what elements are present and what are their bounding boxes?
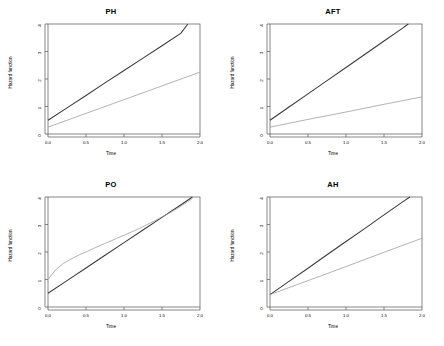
ytick-1: 1 xyxy=(37,279,42,282)
ytick-2: 2 xyxy=(259,79,264,82)
ytick-0: 0 xyxy=(259,134,264,137)
plot-area-po: 4 3 2 1 0 0.0 0.5 1.0 1.5 2.0 xyxy=(0,173,222,346)
y-axis-label: Hazard function xyxy=(8,35,13,111)
plot-frame-po xyxy=(48,197,200,307)
plot-area-ah: 4 3 2 1 0 0.0 0.5 1.0 1.5 2.0 xyxy=(222,173,444,346)
panel-po: PO 4 3 2 1 0 xyxy=(0,173,222,346)
series-line-light xyxy=(48,72,200,127)
xtick-4: 2.0 xyxy=(197,313,204,318)
figure-panel-grid: PH 4 3 2 1 0 xyxy=(0,0,444,346)
ytick-1: 1 xyxy=(37,106,42,109)
panel-ah: AH 4 3 2 1 0 xyxy=(222,173,444,346)
xtick-0: 0.0 xyxy=(45,313,52,318)
plot-frame-ah xyxy=(270,197,422,307)
ytick-0: 0 xyxy=(259,307,264,310)
xtick-0: 0.0 xyxy=(267,313,274,318)
plot-frame-ph xyxy=(48,24,200,134)
ytick-1: 1 xyxy=(259,279,264,282)
xtick-0: 0.0 xyxy=(45,140,52,145)
x-axis-ph: 0.0 0.5 1.0 1.5 2.0 xyxy=(45,134,204,145)
xtick-4: 2.0 xyxy=(419,140,426,145)
ytick-4: 4 xyxy=(259,197,264,200)
xtick-3: 1.5 xyxy=(381,313,388,318)
ytick-4: 4 xyxy=(37,24,42,27)
x-axis-label: Time xyxy=(222,151,444,156)
plot-frame-aft xyxy=(270,24,422,134)
y-axis-label: Hazard function xyxy=(8,208,13,284)
panel-aft: AFT 4 3 2 1 0 xyxy=(222,0,444,173)
ytick-2: 2 xyxy=(259,252,264,255)
ytick-2: 2 xyxy=(37,252,42,255)
x-axis-label: Time xyxy=(0,324,222,329)
plot-area-ph: 4 3 2 1 0 0.0 0.5 1.0 1.5 2.0 xyxy=(0,0,222,173)
y-axis-label: Hazard function xyxy=(230,35,235,111)
ytick-3: 3 xyxy=(37,51,42,54)
xtick-4: 2.0 xyxy=(197,140,204,145)
panel-ph: PH 4 3 2 1 0 xyxy=(0,0,222,173)
ytick-3: 3 xyxy=(259,51,264,54)
ytick-3: 3 xyxy=(259,224,264,227)
xtick-2: 1.0 xyxy=(121,140,128,145)
x-axis-label: Time xyxy=(0,151,222,156)
xtick-1: 0.5 xyxy=(83,313,90,318)
series-line-dark xyxy=(270,24,408,120)
xtick-3: 1.5 xyxy=(159,313,166,318)
y-axis-ph: 4 3 2 1 0 xyxy=(37,24,48,137)
plot-area-aft: 4 3 2 1 0 0.0 0.5 1.0 1.5 2.0 xyxy=(222,0,444,173)
ytick-2: 2 xyxy=(37,79,42,82)
x-axis-label: Time xyxy=(222,324,444,329)
x-axis-po: 0.0 0.5 1.0 1.5 2.0 xyxy=(45,307,204,318)
series-line-dark xyxy=(48,24,188,120)
series-line-dark xyxy=(48,197,192,293)
xtick-0: 0.0 xyxy=(267,140,274,145)
y-axis-aft: 4 3 2 1 0 xyxy=(259,24,270,137)
series-line-light xyxy=(270,97,422,127)
xtick-1: 0.5 xyxy=(305,313,312,318)
series-line-light xyxy=(48,198,192,279)
y-axis-ah: 4 3 2 1 0 xyxy=(259,197,270,310)
xtick-3: 1.5 xyxy=(381,140,388,145)
xtick-2: 1.0 xyxy=(121,313,128,318)
ytick-4: 4 xyxy=(37,197,42,200)
ytick-0: 0 xyxy=(37,134,42,137)
xtick-4: 2.0 xyxy=(419,313,426,318)
xtick-1: 0.5 xyxy=(83,140,90,145)
y-axis-label: Hazard function xyxy=(230,208,235,284)
ytick-1: 1 xyxy=(259,106,264,109)
x-axis-ah: 0.0 0.5 1.0 1.5 2.0 xyxy=(267,307,426,318)
xtick-1: 0.5 xyxy=(305,140,312,145)
ytick-3: 3 xyxy=(37,224,42,227)
ytick-0: 0 xyxy=(37,307,42,310)
x-axis-aft: 0.0 0.5 1.0 1.5 2.0 xyxy=(267,134,426,145)
xtick-2: 1.0 xyxy=(343,140,350,145)
y-axis-po: 4 3 2 1 0 xyxy=(37,197,48,310)
ytick-4: 4 xyxy=(259,24,264,27)
xtick-2: 1.0 xyxy=(343,313,350,318)
xtick-3: 1.5 xyxy=(159,140,166,145)
series-line-light xyxy=(270,238,422,294)
series-line-dark xyxy=(270,197,410,295)
